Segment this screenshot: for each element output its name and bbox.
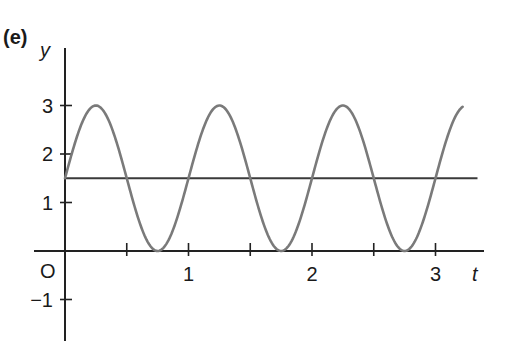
- axes: [34, 48, 484, 341]
- x-axis-label: t: [472, 263, 479, 285]
- sine-chart: (e) 123321−1 y t O: [0, 0, 508, 341]
- y-tick-label: −1: [30, 289, 53, 311]
- y-tick-label: 2: [42, 143, 53, 165]
- y-axis-label: y: [38, 39, 51, 61]
- y-tick-label: 3: [42, 95, 53, 117]
- x-tick-label: 2: [306, 263, 317, 285]
- panel-label: (e): [3, 26, 27, 48]
- y-tick-label: 1: [42, 192, 53, 214]
- x-tick-label: 3: [430, 263, 441, 285]
- x-tick-label: 1: [183, 263, 194, 285]
- origin-label: O: [40, 260, 56, 282]
